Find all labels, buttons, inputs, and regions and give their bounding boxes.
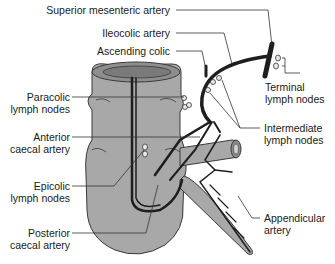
label-intermediate-nodes-1: Intermediate: [264, 122, 322, 134]
label-superior-mesenteric-artery: Superior mesenteric artery: [40, 4, 170, 16]
appendix: [180, 176, 253, 255]
label-terminal-nodes-2: lymph nodes: [265, 93, 325, 105]
label-posterior-caecal-1: Posterior: [0, 227, 70, 239]
label-terminal-nodes-1: Terminal: [265, 81, 305, 93]
label-paracolic-nodes-1: Paracolic: [0, 91, 70, 103]
label-posterior-caecal-2: caecal artery: [0, 239, 70, 251]
label-epicolic-nodes-2: lymph nodes: [0, 192, 70, 204]
ileum: [180, 140, 241, 166]
label-appendicular-artery-1: Appendicular: [264, 212, 325, 224]
label-anterior-caecal-1: Anterior: [0, 131, 70, 143]
label-intermediate-nodes-2: lymph nodes: [264, 134, 324, 146]
label-ascending-colic: Ascending colic: [60, 45, 170, 57]
label-ileocolic-artery: Ileocolic artery: [60, 27, 170, 39]
label-epicolic-nodes-1: Epicolic: [0, 180, 70, 192]
label-paracolic-nodes-2: lymph nodes: [0, 103, 70, 115]
label-appendicular-artery-2: artery: [264, 224, 291, 236]
label-anterior-caecal-2: caecal artery: [0, 143, 70, 155]
